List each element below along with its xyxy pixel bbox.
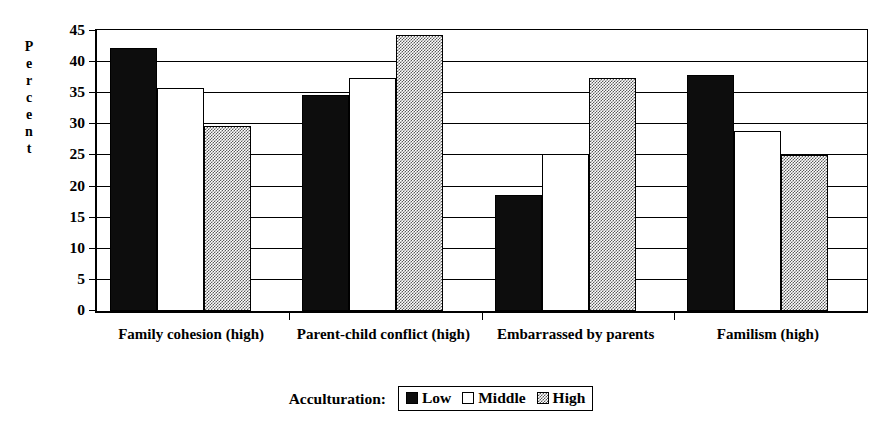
y-axis-tick-label: 10: [55, 239, 85, 257]
x-axis-tick: [674, 311, 675, 320]
bar-high: [589, 78, 636, 311]
legend-label: Middle: [478, 389, 525, 407]
y-axis-title-letter: t: [18, 140, 40, 157]
legend-entry: Middle: [462, 389, 525, 407]
legend-box: LowMiddleHigh: [398, 386, 593, 411]
y-axis-tick: [89, 217, 97, 218]
legend-label: High: [553, 389, 586, 407]
bar-middle: [157, 88, 204, 311]
y-axis-title-letter: e: [18, 106, 40, 123]
y-axis-tick-label: 15: [55, 208, 85, 226]
legend-entry: Low: [406, 389, 451, 407]
y-axis-tick: [89, 123, 97, 124]
legend-title: Acculturation:: [289, 390, 386, 408]
y-axis-tick: [89, 154, 97, 155]
legend-swatch-low-icon: [406, 392, 418, 404]
y-axis-tick-label: 20: [55, 177, 85, 195]
y-axis-tick-label: 40: [55, 52, 85, 70]
x-axis-tick: [482, 311, 483, 320]
y-axis-tick: [89, 279, 97, 280]
bar-chart-figure: Percent 051015202530354045 Family cohesi…: [0, 0, 882, 428]
legend: Acculturation: LowMiddleHigh: [0, 386, 882, 411]
plot-area: 051015202530354045: [95, 29, 868, 313]
bar-middle: [349, 78, 396, 311]
y-axis-title-letter: e: [18, 55, 40, 72]
x-axis-category-labels: Family cohesion (high)Parent-child confl…: [95, 324, 868, 386]
gridline: [97, 92, 867, 93]
bar-low: [495, 195, 542, 311]
x-axis-category-label: Embarrassed by parents: [480, 324, 672, 345]
bar-high: [781, 155, 828, 311]
y-axis-tick: [89, 186, 97, 187]
y-axis-tick: [89, 30, 97, 31]
x-axis-category-label: Family cohesion (high): [95, 324, 287, 345]
y-axis-tick: [89, 310, 97, 311]
legend-entry: High: [537, 389, 586, 407]
x-axis-category-label: Parent-child conflict (high): [287, 324, 479, 345]
y-axis-title-letter: c: [18, 89, 40, 106]
y-axis-title-letter: n: [18, 123, 40, 140]
plot-inner: 051015202530354045: [97, 30, 867, 311]
bar-low: [687, 75, 734, 311]
bar-low: [302, 95, 349, 311]
bar-middle: [542, 154, 589, 311]
y-axis-tick-label: 45: [55, 21, 85, 39]
legend-swatch-middle-icon: [462, 392, 474, 404]
y-axis-tick-label: 5: [55, 270, 85, 288]
legend-swatch-high-icon: [537, 392, 549, 404]
legend-label: Low: [422, 389, 451, 407]
gridline: [97, 123, 867, 124]
y-axis-tick: [89, 61, 97, 62]
y-axis-tick: [89, 92, 97, 93]
x-axis-category-label: Familism (high): [672, 324, 864, 345]
y-axis-title-letter: P: [18, 38, 40, 55]
bar-low: [110, 48, 157, 311]
bar-high: [396, 35, 443, 311]
gridline: [97, 61, 867, 62]
x-axis-tick: [289, 311, 290, 320]
y-axis-tick-label: 0: [55, 301, 85, 319]
y-axis-tick: [89, 248, 97, 249]
y-axis-title-letter: r: [18, 72, 40, 89]
y-axis-tick-label: 30: [55, 114, 85, 132]
y-axis-title: Percent: [18, 38, 40, 157]
y-axis-tick-label: 35: [55, 83, 85, 101]
bar-middle: [734, 131, 781, 311]
y-axis-tick-label: 25: [55, 145, 85, 163]
bar-high: [204, 126, 251, 311]
